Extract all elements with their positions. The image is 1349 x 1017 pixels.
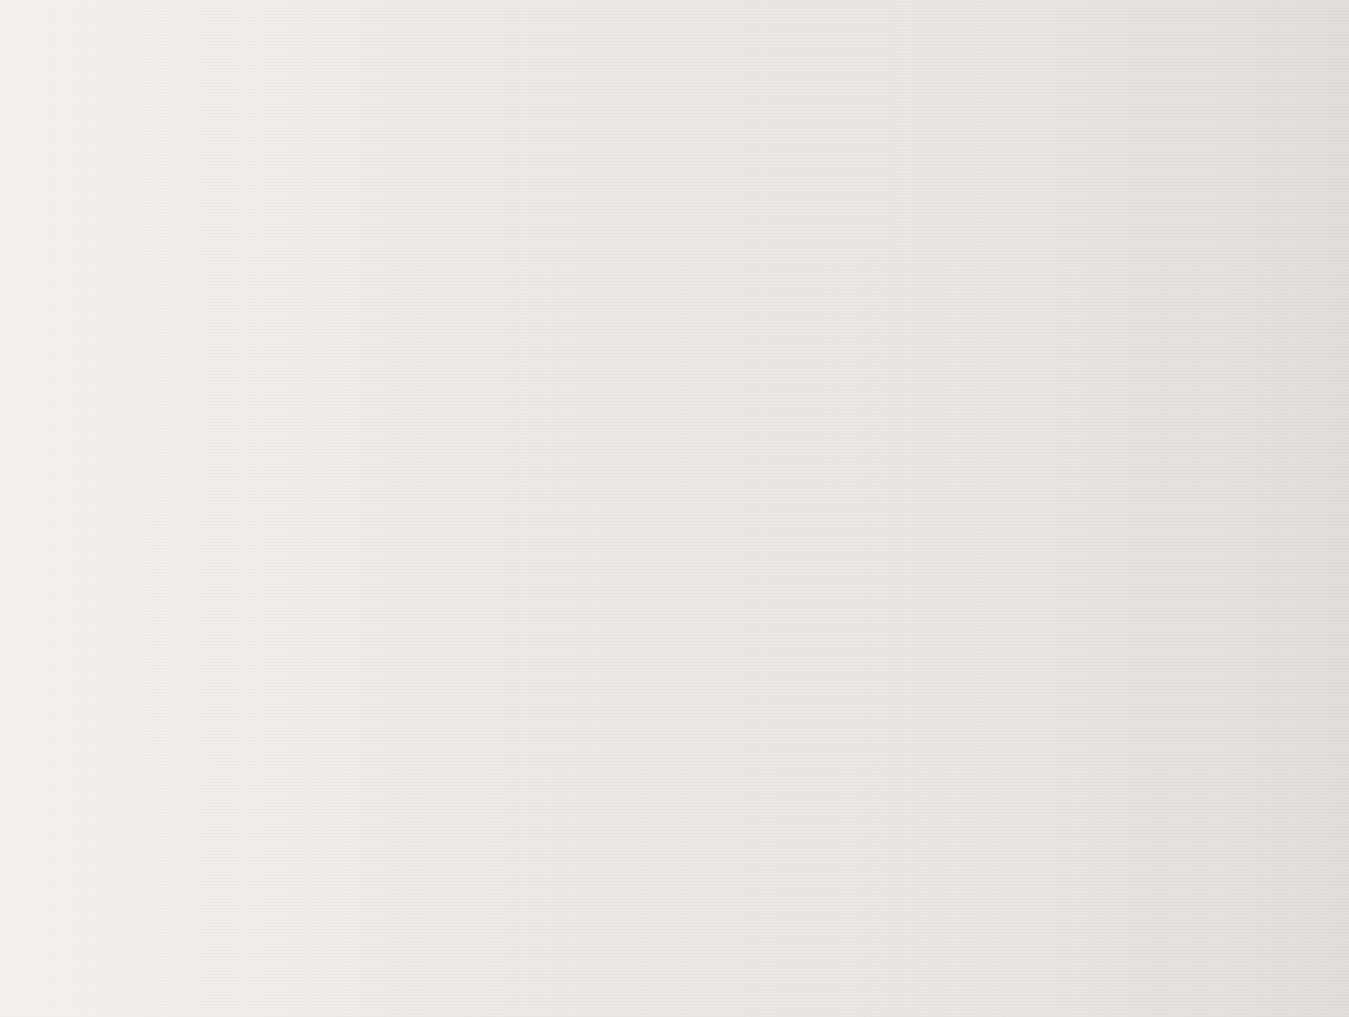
annotation-december-3: December 3, suspended campaign over char… xyxy=(780,300,1120,344)
figure-number: FIGURE 9.1 xyxy=(30,34,148,57)
annotation-january-3: January 3, Iowa caucuses xyxy=(844,382,1184,404)
row-name: Newt Gingrich xyxy=(1009,720,1349,741)
row-label-michelle-bachmann: Michelle Bachmann (congresswoman, Minnes… xyxy=(1009,416,1349,458)
x-tick-label-4: 5/1/2012 xyxy=(973,946,1039,966)
row-label-mitt-romney: Mitt Romney (ex-governor, Massachusetts) xyxy=(1009,872,1349,914)
y-axis-line xyxy=(330,92,331,930)
x-tick-label-1: 8/1/2011 xyxy=(418,946,483,966)
bar-rick-santorum xyxy=(368,644,977,684)
bar-michelle-bachmann xyxy=(436,416,822,456)
y-tick-1 xyxy=(373,244,385,245)
row-label-tim-pawlenty: Tim Pawlenty (ex-governor, Minnesota) xyxy=(1009,188,1349,230)
bar-rick-perry xyxy=(530,568,855,608)
bar-tim-pawlenty xyxy=(358,188,533,228)
chart-plot-area: Tim Pawlenty (ex-governor, Minnesota) Th… xyxy=(0,0,1349,1017)
annotation-august-13: August 13, Ames, Iowa, Repulican straw p… xyxy=(556,118,1116,184)
row-role: (ex-governor, Utah) xyxy=(1009,513,1349,534)
bar-jon-huntsman xyxy=(423,492,855,532)
y-tick-5 xyxy=(373,548,385,549)
row-role: (ex-governor, Minnesota) xyxy=(1009,209,1349,230)
x-axis-baseline xyxy=(385,929,1310,930)
y-tick-3 xyxy=(373,396,385,397)
bar-thad-mccotter xyxy=(446,264,613,304)
y-tick-7 xyxy=(373,700,385,701)
annotation-april-3: April 3, Primaries in Washington, D.C., … xyxy=(900,552,1260,596)
bar-ron-paul xyxy=(332,796,1081,836)
x-tick-label-0: 5/1/2011 xyxy=(290,946,355,966)
annotation-august-27-30: August 27–30, Romney nominated xyxy=(1125,812,1347,856)
figure-subtitle: From Many to Two: Presidential Hopefuls … xyxy=(157,34,831,57)
row-label-jon-huntsman: Jon Huntsman (ex-governor, Utah) xyxy=(1009,492,1349,534)
bar-herbert-cain xyxy=(360,340,757,380)
x-tick-label-2: 11/1/2011 xyxy=(596,946,670,966)
row-role: (businessman) xyxy=(1009,361,1349,382)
row-label-herbert-cain: Herbert Cain (businessman) xyxy=(1009,340,1349,382)
annotation-may-14: May 14, Paul ended primary campaign xyxy=(1085,740,1335,784)
row-name: Tim Pawlenty xyxy=(1009,188,1349,209)
y-tick-2 xyxy=(373,320,385,321)
y-tick-9 xyxy=(373,852,385,853)
annotation-may-2: May 2, Gingrich ended campaign xyxy=(1020,664,1270,708)
y-tick-4 xyxy=(373,472,385,473)
y-tick-0 xyxy=(373,168,385,169)
row-name: Michelle Bachmann xyxy=(1009,416,1349,437)
row-name: Rick Santorum xyxy=(1009,644,1349,665)
row-name: Thad McCotter xyxy=(1009,264,1349,285)
row-name: Mitt Romney xyxy=(1009,872,1349,893)
bar-newt-gingrich xyxy=(332,720,1006,760)
annotation-january-10: January 10, New Hampshire primary xyxy=(876,458,1276,480)
row-role: (congresswoman, Minnesota) xyxy=(1009,437,1349,458)
row-role: (ex-governor, Massachusetts) xyxy=(1009,893,1349,914)
y-tick-8 xyxy=(373,776,385,777)
annotation-september-22: September 22, polling only about 1 perce… xyxy=(632,228,1192,250)
page-title: FIGURE 9.1From Many to Two: Presidential… xyxy=(30,34,832,58)
row-name: Jon Huntsman xyxy=(1009,492,1349,513)
x-tick-label-3: 2/1/2012 xyxy=(785,946,851,966)
x-tick-label-5: 8/1/2012 xyxy=(1191,946,1257,966)
y-tick-6 xyxy=(373,624,385,625)
